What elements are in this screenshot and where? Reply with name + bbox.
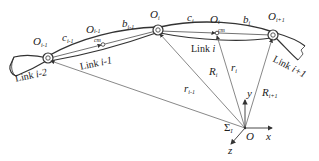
vector-R-i+1 <box>245 39 272 128</box>
label-axis-x: x <box>266 131 271 142</box>
label-o-i+1: Oi+1 <box>268 11 285 23</box>
label-axis-z: z <box>228 145 232 156</box>
joint-o-i+1 <box>268 30 278 40</box>
label-link-i: Link i <box>191 44 215 54</box>
label-c-i: ci <box>187 12 194 24</box>
label-r-i-1: ri-1 <box>184 83 195 95</box>
vector-r-i <box>217 36 245 128</box>
label-o-i-1: Oi-1 <box>33 36 48 48</box>
label-frame-sigma: ΣI <box>224 122 232 134</box>
label-r-i: ri <box>231 62 237 74</box>
label-b-i: bi <box>243 14 250 26</box>
origin-dot <box>244 127 246 129</box>
joint-o-i <box>153 25 163 35</box>
kinematic-chain-diagram <box>0 0 319 161</box>
label-com-i: Oicm <box>210 14 228 25</box>
label-o-i: Oi <box>150 9 160 21</box>
label-R-i: Ri <box>209 66 217 78</box>
label-b-i-1: bi-1 <box>122 18 134 30</box>
b-i-vector <box>219 33 271 35</box>
label-axis-y: y <box>247 88 252 99</box>
label-c-i-1: ci-1 <box>62 32 74 44</box>
label-com-i-1: Oi-1cm <box>86 24 104 35</box>
com-i-1 <box>101 43 105 47</box>
label-origin: O <box>246 131 254 142</box>
axis-z <box>231 128 245 144</box>
label-R-i+1: Ri+1 <box>262 87 277 99</box>
c-i-vector <box>160 31 215 33</box>
